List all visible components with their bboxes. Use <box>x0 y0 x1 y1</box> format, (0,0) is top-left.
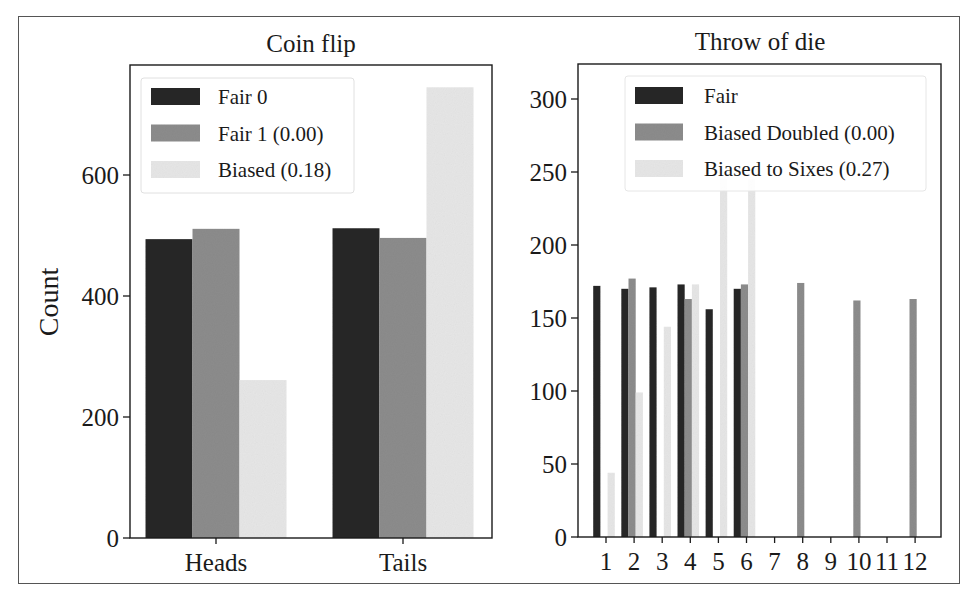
die-throw-bars <box>593 179 917 537</box>
die-bar-2-1 <box>629 279 636 537</box>
die-bar-2-0 <box>621 289 628 537</box>
die-throw-chart: Throw of die FairBiased Doubled (0.00)Bi… <box>530 28 942 575</box>
die-bar-10-1 <box>853 300 860 537</box>
figure: Count Coin flip Fair 0Fair 1 (0.00)Biase… <box>0 0 970 595</box>
coin-bar-heads-2 <box>240 380 287 538</box>
die-legend-label: Biased to Sixes (0.27) <box>704 157 889 181</box>
die-bar-1-2 <box>608 473 615 537</box>
die-x-tick-label: 9 <box>825 548 838 575</box>
die-bar-12-1 <box>910 299 917 537</box>
die-x-tick-label: 7 <box>768 548 781 575</box>
die-y-tick-label: 100 <box>530 378 568 405</box>
die-bar-6-1 <box>741 284 748 537</box>
die-y-tick-label: 250 <box>530 159 568 186</box>
die-bar-2-2 <box>636 392 643 537</box>
die-bar-6-0 <box>734 289 741 537</box>
die-x-tick-label: 6 <box>740 548 753 575</box>
die-x-tick-label: 12 <box>903 548 928 575</box>
coin-y-tick-label: 600 <box>82 162 120 189</box>
die-x-tick-label: 4 <box>684 548 697 575</box>
die-y-tick-label: 0 <box>555 524 568 551</box>
die-x-tick-label: 5 <box>712 548 725 575</box>
coin-legend-label: Fair 1 (0.00) <box>218 122 324 146</box>
coin-bar-tails-1 <box>380 238 427 538</box>
legend-swatch-0 <box>151 88 200 105</box>
die-throw-legend: FairBiased Doubled (0.00)Biased to Sixes… <box>625 76 926 191</box>
coin-bar-heads-0 <box>146 239 193 538</box>
die-bar-4-2 <box>692 284 699 537</box>
coin-flip-chart: Coin flip Fair 0Fair 1 (0.00)Biased (0.1… <box>82 30 493 576</box>
die-x-tick-label: 2 <box>628 548 641 575</box>
die-legend-label: Biased Doubled (0.00) <box>704 121 895 145</box>
die-y-tick-label: 50 <box>542 451 567 478</box>
die-bar-4-1 <box>685 299 692 537</box>
die-throw-title: Throw of die <box>695 28 826 55</box>
die-bar-5-0 <box>706 309 713 537</box>
die-y-tick-label: 300 <box>530 86 568 113</box>
legend-swatch-1 <box>635 124 683 141</box>
legend-swatch-0 <box>635 87 683 104</box>
coin-y-tick-label: 0 <box>107 525 120 552</box>
coin-legend-label: Fair 0 <box>218 85 268 109</box>
die-y-tick-label: 200 <box>530 232 568 259</box>
die-x-tick-label: 1 <box>600 548 613 575</box>
coin-flip-title: Coin flip <box>266 30 356 57</box>
die-x-tick-label: 11 <box>875 548 899 575</box>
legend-swatch-2 <box>151 161 200 178</box>
legend-swatch-1 <box>151 125 200 142</box>
coin-y-tick-label: 400 <box>82 283 120 310</box>
coin-flip-y-ticks: 0200400600 <box>82 162 131 552</box>
legend-swatch-2 <box>635 160 683 177</box>
die-bar-3-0 <box>649 287 656 537</box>
coin-bar-heads-1 <box>193 229 240 538</box>
coin-flip-legend: Fair 0Fair 1 (0.00)Biased (0.18) <box>141 78 354 193</box>
coin-y-tick-label: 200 <box>82 404 120 431</box>
die-x-tick-label: 3 <box>656 548 669 575</box>
die-bar-3-2 <box>664 327 671 537</box>
die-y-tick-label: 150 <box>530 305 568 332</box>
die-bar-6-2 <box>748 179 755 537</box>
die-x-tick-label: 8 <box>796 548 809 575</box>
coin-flip-x-ticks: HeadsTails <box>185 538 427 576</box>
die-x-tick-label: 10 <box>846 548 871 575</box>
die-bar-4-0 <box>678 284 685 537</box>
coin-bar-tails-2 <box>427 87 474 538</box>
coin-x-tick-label: Tails <box>379 549 427 576</box>
coin-bar-tails-0 <box>333 228 380 538</box>
die-legend-label: Fair <box>704 84 738 108</box>
die-throw-x-ticks: 123456789101112 <box>600 537 928 575</box>
y-axis-label: Count <box>33 268 64 337</box>
die-bar-5-2 <box>720 179 727 537</box>
coin-x-tick-label: Heads <box>185 549 247 576</box>
die-bar-1-0 <box>593 286 600 537</box>
coin-legend-label: Biased (0.18) <box>218 158 331 182</box>
die-throw-y-ticks: 050100150200250300 <box>530 86 579 551</box>
die-bar-8-1 <box>797 283 804 537</box>
